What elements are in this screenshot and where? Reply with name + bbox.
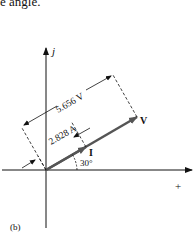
voltage-phasor-label: V [140,115,148,126]
dimension-lines [22,75,137,170]
angle-label: 30° [80,158,93,168]
current-phasor-label: I [89,147,93,158]
real-axis-label: + [175,180,181,192]
phasor-diagram: j + V I 30° 5.656 V 2.828 A (b) [0,0,196,242]
current-magnitude-label: 2.828 A [47,123,78,147]
figure-label: (b) [10,222,21,232]
voltage-magnitude-label: 5.656 V [54,91,85,115]
imaginary-axis-label: j [50,45,55,57]
